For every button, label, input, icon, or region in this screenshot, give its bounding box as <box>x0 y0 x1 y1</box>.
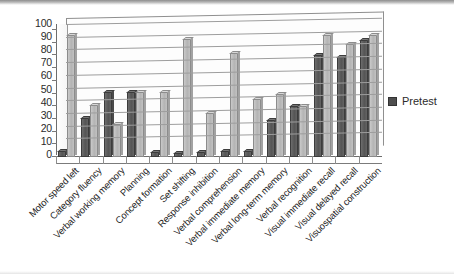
bar-side <box>307 104 309 155</box>
bar-pretest-10 <box>290 106 298 157</box>
bar-face <box>360 40 368 157</box>
bar-side <box>121 122 123 155</box>
y-tick-label-80: 80 <box>18 44 52 54</box>
bar-posttest-7 <box>230 53 238 157</box>
category-label-12: Visual delayed recall <box>211 165 360 274</box>
x-axis-tick-11 <box>312 156 313 164</box>
x-axis-tick-13 <box>359 156 360 164</box>
category-label-4: Concept formation <box>25 165 174 274</box>
x-axis-tick-5 <box>172 156 173 164</box>
bar-group <box>221 24 244 157</box>
bar-side <box>354 42 356 155</box>
bar-face <box>290 106 298 157</box>
y-tick-label-10: 10 <box>18 136 52 146</box>
bar-face <box>346 44 354 157</box>
bar-pretest-0 <box>58 151 66 157</box>
category-label-8: Verbal immediate memory <box>118 165 267 274</box>
bar-pretest-13 <box>360 40 368 157</box>
y-tick-label-60: 60 <box>18 70 52 80</box>
x-axis-tick-4 <box>149 156 150 164</box>
category-label-0: Motor speed left <box>0 165 81 274</box>
x-axis-tick-9 <box>266 156 267 164</box>
bar-pretest-7 <box>221 151 229 157</box>
y-axis-tick-100 <box>52 29 57 30</box>
category-label-2: Verbal working memory <box>0 165 127 274</box>
category-label-5: Set shifting <box>48 165 197 274</box>
x-axis-tick-1 <box>79 156 80 164</box>
y-tick-label-90: 90 <box>18 31 52 41</box>
bar-face <box>113 124 121 157</box>
x-axis-tick-0 <box>56 156 57 164</box>
y-tick-label-20: 20 <box>18 123 52 133</box>
bar-posttest-8 <box>253 99 261 157</box>
category-label-11: Visual immediate recall <box>187 165 336 274</box>
bar-group <box>174 24 197 157</box>
bar-side <box>98 103 100 155</box>
bar-side <box>214 111 216 155</box>
y-axis-tick-70 <box>52 67 57 68</box>
bar-side <box>284 92 286 156</box>
category-label-7: Verbal comprehension <box>94 165 243 274</box>
legend-label-pretest: Pretest <box>402 95 437 107</box>
bar-posttest-10 <box>299 106 307 157</box>
bar-pretest-4 <box>151 152 159 157</box>
bar-side <box>261 97 263 155</box>
bar-face <box>369 35 377 157</box>
bar-posttest-2 <box>113 124 121 157</box>
bar-posttest-11 <box>323 35 331 157</box>
y-tick-label-0: 0 <box>18 149 52 159</box>
x-axis-tick-6 <box>196 156 197 164</box>
bar-posttest-13 <box>369 35 377 157</box>
bar-face <box>323 35 331 157</box>
category-label-6: Response inhibition <box>71 165 220 274</box>
x-axis-tick-3 <box>126 156 127 164</box>
y-tick-label-50: 50 <box>18 84 52 94</box>
y-tick-label-40: 40 <box>18 97 52 107</box>
x-axis-tick-12 <box>335 156 336 164</box>
y-axis-labels: 1009080706050403020100 <box>18 18 52 160</box>
bar-pretest-6 <box>197 152 205 157</box>
bar-face <box>253 99 261 157</box>
y-axis-tick-50 <box>52 93 57 94</box>
y-axis-tick-80 <box>52 54 57 55</box>
y-tick-label-100: 100 <box>18 18 52 28</box>
category-label-10: Verbal recognition <box>164 165 313 274</box>
bar-side <box>168 90 170 155</box>
x-axis-tick-8 <box>242 156 243 164</box>
y-tick-label-70: 70 <box>18 57 52 67</box>
bar-side <box>144 90 146 155</box>
plot-area <box>56 24 382 157</box>
chart-legend: Pretest <box>388 95 437 107</box>
y-axis-tick-20 <box>52 131 57 132</box>
bar-posttest-12 <box>346 44 354 157</box>
category-label-1: Category fluency <box>0 165 104 274</box>
x-axis-tick-2 <box>103 156 104 164</box>
category-label-9: Verbal long-term memory <box>141 165 290 274</box>
bar-posttest-9 <box>276 94 284 158</box>
y-axis-tick-90 <box>52 42 57 43</box>
category-label-3: Planning <box>1 165 150 274</box>
bar-group <box>197 24 220 157</box>
bar-side <box>191 37 193 155</box>
bar-side <box>238 51 240 155</box>
bar-pretest-9 <box>267 120 275 157</box>
bar-group <box>244 24 267 157</box>
y-axis-tick-30 <box>52 118 57 119</box>
x-axis-tick-7 <box>219 156 220 164</box>
legend-swatch-pretest <box>388 97 397 106</box>
bar-side <box>75 33 77 155</box>
bar-pretest-8 <box>244 151 252 157</box>
bar-chart: 1009080706050403020100 Motor speed leftC… <box>0 0 454 274</box>
y-axis-tick-40 <box>52 105 57 106</box>
y-axis-tick-60 <box>52 80 57 81</box>
x-axis-tick-10 <box>289 156 290 164</box>
bar-pretest-5 <box>174 153 182 157</box>
bar-face <box>230 53 238 157</box>
category-label-13: Visuospatial construction <box>234 165 383 274</box>
bar-face <box>267 120 275 157</box>
y-tick-label-30: 30 <box>18 110 52 120</box>
bar-face <box>276 94 284 158</box>
y-axis-tick-10 <box>52 143 57 144</box>
bar-face <box>299 106 307 157</box>
